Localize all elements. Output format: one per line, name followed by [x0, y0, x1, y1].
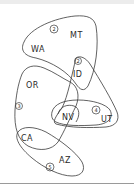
svg-text:2: 2 — [52, 26, 55, 32]
node-or: OR — [26, 81, 39, 90]
group-number-4: 4 — [92, 106, 100, 114]
svg-text:4: 4 — [94, 107, 97, 113]
node-wa: WA — [31, 45, 45, 54]
group-number-2b: 2 — [75, 58, 82, 65]
node-id: ID — [73, 70, 83, 79]
group-number-2a: 2 — [50, 25, 58, 33]
group-number-3: 3 — [16, 103, 23, 110]
node-ca: CA — [21, 134, 33, 143]
node-az: AZ — [59, 156, 71, 165]
state-hypergraph-diagram: WA MT ID OR NV UT CA AZ 2 2 3 4 5 — [0, 0, 134, 195]
svg-text:3: 3 — [17, 103, 20, 109]
svg-text:5: 5 — [48, 164, 51, 170]
bottom-rule — [0, 183, 134, 184]
node-ut: UT — [101, 115, 113, 124]
group-number-5: 5 — [46, 163, 54, 171]
node-nv: NV — [62, 113, 74, 122]
svg-text:2: 2 — [76, 58, 79, 64]
node-mt: MT — [70, 31, 83, 40]
